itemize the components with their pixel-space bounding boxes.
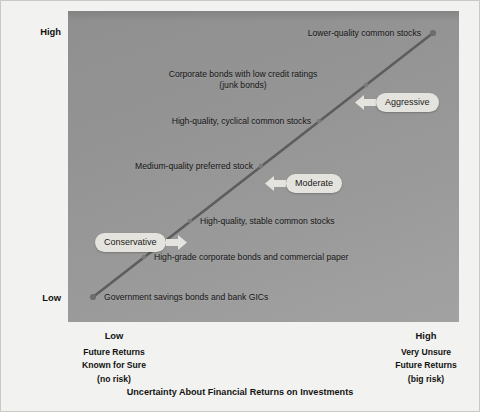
data-point-dot	[430, 30, 436, 36]
point-label-corporate-bonds-line1: Corporate bonds with low credit ratings	[169, 69, 318, 79]
point-label-high-quality-stable-common-stocks: High-quality, stable common stocks	[200, 216, 335, 227]
point-label-high-quality-cyclical-common-stocks: High-quality, cyclical common stocks	[68, 116, 311, 127]
callout-aggressive-label: Aggressive	[376, 93, 439, 112]
point-label-lower-quality-common-stocks: Lower-quality common stocks	[173, 28, 421, 39]
x-tick-low: Low Future Returns Known for Sure (no ri…	[49, 329, 179, 386]
data-point-dot	[142, 255, 147, 260]
data-point-dot	[188, 219, 193, 224]
callout-conservative[interactable]: Conservative	[95, 233, 188, 252]
x-tick-low-level: Low	[49, 329, 179, 343]
arrow-left-icon	[354, 93, 376, 112]
x-tick-high-detail-1: Very Unsure	[361, 346, 480, 360]
x-tick-low-detail-2: Known for Sure	[49, 359, 179, 373]
plot-area: Government savings bonds and bank GICs H…	[68, 11, 459, 322]
arrow-left-icon	[264, 174, 286, 193]
callout-conservative-label: Conservative	[95, 233, 166, 252]
point-label-medium-quality-preferred-stock: Medium-quality preferred stock	[68, 161, 253, 172]
y-tick-high: High	[15, 26, 61, 37]
x-tick-low-detail-1: Future Returns	[49, 346, 179, 360]
callout-moderate-label: Moderate	[286, 174, 342, 193]
data-point-dot	[317, 119, 322, 124]
point-label-junk-bonds-line2: (junk bonds)	[219, 80, 266, 90]
data-point-dot	[364, 83, 369, 88]
risk-return-chart: Size of Financial Returns That Must Be O…	[0, 0, 480, 412]
point-label-government-savings-bonds: Government savings bonds and bank GICs	[104, 292, 268, 303]
arrow-right-icon	[166, 233, 188, 252]
callout-aggressive[interactable]: Aggressive	[354, 93, 439, 112]
x-tick-low-detail-3: (no risk)	[49, 373, 179, 387]
x-axis-title: Uncertainty About Financial Returns on I…	[1, 387, 479, 397]
data-point-dot	[259, 164, 264, 169]
y-tick-low: Low	[15, 292, 61, 303]
data-point-dot	[90, 294, 96, 300]
point-label-corporate-bonds-junk: Corporate bonds with low credit ratings …	[128, 69, 358, 91]
x-tick-high-level: High	[361, 329, 480, 343]
x-tick-high: High Very Unsure Future Returns (big ris…	[361, 329, 480, 386]
x-tick-high-detail-3: (big risk)	[361, 373, 480, 387]
x-tick-high-detail-2: Future Returns	[361, 359, 480, 373]
callout-moderate[interactable]: Moderate	[264, 174, 342, 193]
point-label-high-grade-corporate-bonds: High-grade corporate bonds and commercia…	[154, 252, 348, 263]
